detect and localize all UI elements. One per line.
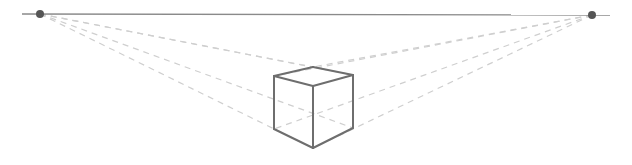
horizon-line [22, 14, 610, 15]
guide-line [313, 15, 592, 148]
perspective-guide-lines [40, 14, 592, 148]
guide-line [40, 14, 353, 128]
guide-line [40, 14, 353, 75]
cube-edge [313, 75, 353, 86]
guide-line [40, 14, 313, 148]
left-vanishing-point-dot-icon [36, 10, 44, 18]
guide-line [274, 15, 592, 129]
right-vanishing-point-dot-icon [588, 11, 596, 19]
cube-edge [274, 129, 313, 148]
cube-edge [313, 67, 353, 75]
guide-line [274, 15, 592, 76]
perspective-diagram [0, 0, 632, 165]
cube-edge [313, 128, 353, 148]
guide-line [313, 15, 592, 67]
cube [274, 67, 353, 148]
cube-edge [274, 67, 313, 76]
cube-edge [274, 76, 313, 86]
